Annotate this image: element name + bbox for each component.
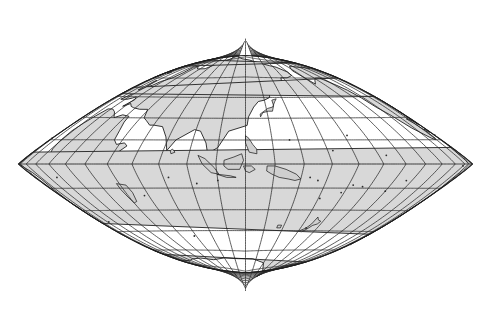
island-speck-22	[217, 180, 219, 182]
island-speck-17	[289, 139, 291, 141]
island-speck-15	[138, 242, 140, 244]
island-speck-24	[462, 165, 464, 167]
landmass-tasmania	[277, 225, 282, 228]
island-speck-23	[168, 176, 170, 178]
island-speck-7	[385, 154, 387, 156]
island-speck-6	[309, 176, 311, 178]
map-canvas	[0, 0, 486, 321]
island-speck-9	[193, 235, 195, 237]
island-speck-0	[317, 180, 319, 182]
island-speck-1	[340, 192, 342, 194]
island-speck-18	[332, 150, 334, 152]
island-speck-5	[362, 186, 364, 188]
world-map-figure	[0, 0, 486, 321]
island-speck-20	[346, 135, 348, 137]
island-speck-21	[196, 183, 198, 185]
island-speck-12	[51, 137, 53, 139]
island-speck-10	[56, 177, 58, 179]
island-speck-8	[305, 227, 307, 229]
island-speck-19	[352, 184, 354, 186]
island-speck-4	[319, 198, 321, 200]
island-speck-13	[434, 134, 436, 136]
island-speck-11	[144, 195, 146, 197]
island-speck-3	[405, 180, 407, 182]
island-speck-2	[384, 190, 386, 192]
island-speck-16	[108, 221, 110, 223]
island-speck-14	[349, 243, 351, 245]
